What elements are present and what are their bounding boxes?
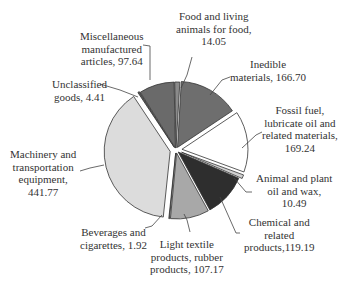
label-unclassified: Unclassifiedgoods, 4.41 xyxy=(52,78,107,103)
label-inedible: Inediblematerials, 166.70 xyxy=(230,58,306,83)
label-misc: Miscellaneousmanufacturedarticles, 97.64 xyxy=(80,30,144,68)
label-food: Food and livinganimals for food,14.05 xyxy=(176,10,251,48)
label-machinery: Machinery andtransportationequipment,441… xyxy=(10,148,76,198)
label-beverages: Beverages andcigarettes, 1.92 xyxy=(80,226,147,251)
label-animal: Animal and plantoil and wax,10.49 xyxy=(256,172,332,210)
label-chemical: Chemical andrelatedproducts,119.19 xyxy=(244,216,314,254)
label-light: Light textileproducts, rubberproducts, 1… xyxy=(150,238,224,276)
pie-chart: Food and livinganimals for food,14.05 In… xyxy=(0,0,345,283)
label-fossil: Fossil fuel,lubricate oil andrelated mat… xyxy=(262,104,338,154)
